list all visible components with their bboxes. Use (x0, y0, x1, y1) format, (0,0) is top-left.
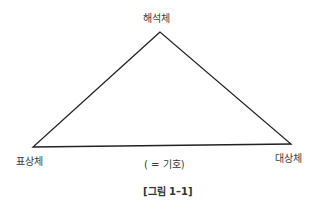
node-label-interpretant: 해석체 (143, 10, 170, 25)
node-label-representamen: 표상체 (16, 153, 43, 168)
figure-caption: [그림 1–1] (143, 183, 193, 198)
base-label-sign: ( = 기호) (144, 156, 185, 171)
node-label-object: 대상체 (275, 150, 302, 165)
